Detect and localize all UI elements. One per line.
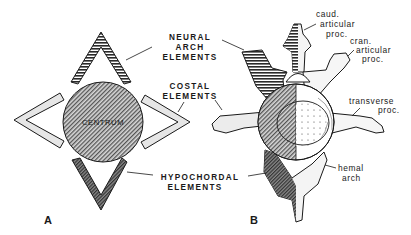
svg-text:NEURAL: NEURAL	[169, 33, 211, 42]
centrum-b-shape	[258, 84, 334, 160]
svg-text:ELEMENTS: ELEMENTS	[163, 53, 218, 62]
neural-arch-label: NEURAL ARCH ELEMENTS	[163, 33, 218, 62]
neural-arch-element-shape	[71, 32, 131, 84]
svg-text:arch: arch	[342, 173, 361, 183]
cran-articular-label: cran. articular proc.	[350, 36, 391, 64]
svg-text:ARCH: ARCH	[176, 43, 205, 52]
hemal-arch-leader-line	[325, 165, 336, 168]
svg-text:caud.: caud.	[316, 9, 340, 19]
svg-text:HYPOCHORDAL: HYPOCHORDAL	[161, 173, 239, 182]
costal-element-left-shape	[14, 93, 64, 148]
vertebra-diagram-figure: CENTRUM NEURAL ARCH ELEMENTS COSTAL ELEM…	[0, 0, 411, 235]
cran-articular-leader-line	[348, 50, 354, 56]
costal-leader-line	[178, 102, 184, 112]
svg-text:articular: articular	[320, 19, 355, 29]
svg-text:proc.: proc.	[378, 105, 400, 115]
caud-articular-leader-line	[304, 24, 316, 30]
transverse-leader-line	[352, 108, 360, 116]
svg-text:ELEMENTS: ELEMENTS	[163, 92, 218, 101]
hemal-arch-label: hemal arch	[338, 163, 364, 183]
svg-text:proc.: proc.	[326, 29, 348, 39]
svg-text:hemal: hemal	[338, 163, 364, 173]
panel-a-letter: A	[44, 214, 52, 226]
hypochordal-shading	[264, 150, 296, 222]
caud-articular-label: caud. articular proc.	[316, 9, 355, 39]
neural-arch-b-leader-line	[222, 40, 244, 50]
neural-arch-leader-line	[126, 47, 152, 60]
costal-b-leader-line	[215, 100, 222, 110]
costal-label: COSTAL ELEMENTS	[163, 82, 218, 101]
panel-b: caud. articular proc. cran. articular pr…	[212, 9, 400, 226]
hypochordal-b-leader-line	[248, 173, 266, 176]
centrum-label: CENTRUM	[82, 118, 124, 127]
panel-b-letter: B	[250, 214, 258, 226]
panel-a: CENTRUM NEURAL ARCH ELEMENTS COSTAL ELEM…	[14, 32, 239, 226]
hypochordal-element-shape	[72, 158, 127, 210]
transverse-label: transverse proc.	[349, 96, 400, 115]
hypochordal-leader-line	[127, 172, 153, 175]
transverse-process-right-shape	[330, 113, 384, 133]
hypochordal-label: HYPOCHORDAL ELEMENTS	[161, 173, 239, 192]
svg-text:proc.: proc.	[362, 54, 384, 64]
costal-element-right-shape	[141, 95, 190, 149]
svg-text:COSTAL: COSTAL	[170, 82, 211, 91]
costal-process-left-shape	[212, 112, 265, 133]
svg-text:ELEMENTS: ELEMENTS	[168, 183, 223, 192]
